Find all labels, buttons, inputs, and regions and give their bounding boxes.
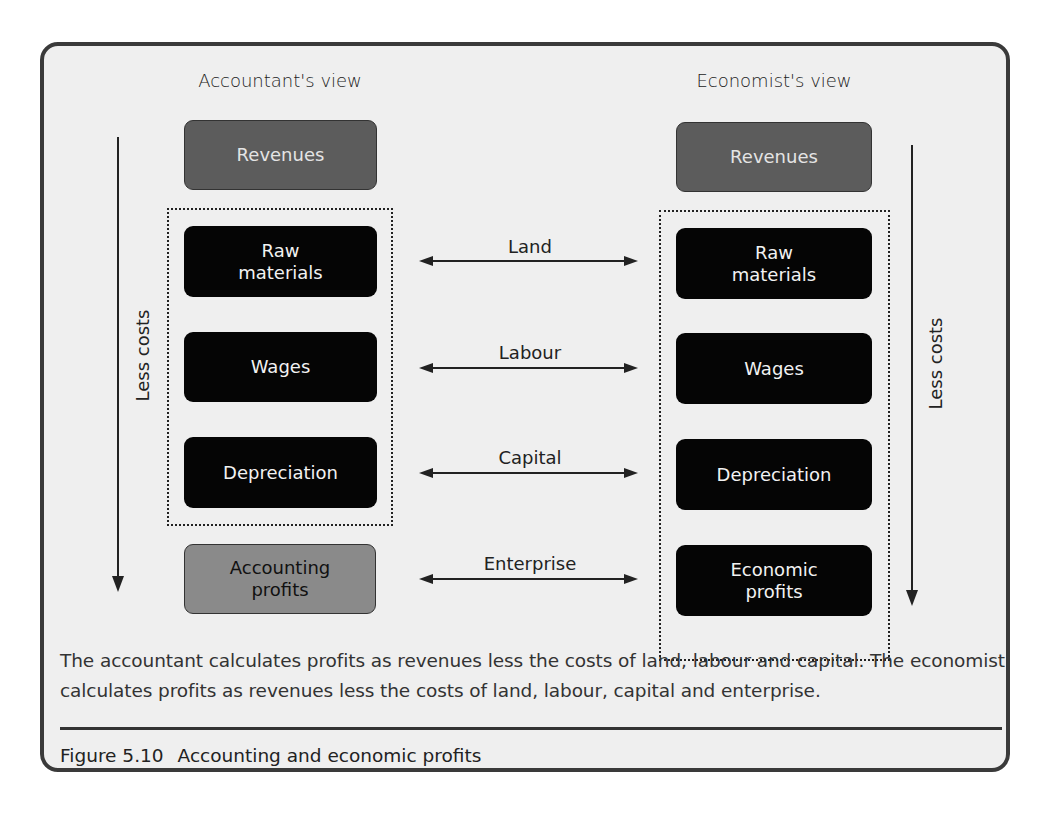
accountant-depreciation-box: Depreciation [184, 437, 377, 508]
connector-label-capital: Capital [425, 447, 635, 468]
economist-view-title: Economist's view [644, 70, 904, 91]
accountant-raw-materials-box: Raw materials [184, 226, 377, 297]
figure-title-line: Figure 5.10Accounting and economic profi… [60, 745, 481, 766]
connector-capital-line [430, 472, 630, 474]
accountant-revenues-box: Revenues [184, 120, 377, 190]
economist-raw-materials-box: Raw materials [676, 228, 872, 299]
connector-label-land: Land [425, 236, 635, 257]
figure-title: Accounting and economic profits [178, 745, 482, 766]
right-less-costs-arrow-line [911, 145, 913, 592]
right-arrowhead-icon [624, 468, 638, 478]
left-arrowhead-icon [419, 363, 433, 373]
right-arrowhead-icon [624, 363, 638, 373]
left-arrowhead-icon [419, 468, 433, 478]
connector-labour-line [430, 367, 630, 369]
connector-label-enterprise: Enterprise [425, 553, 635, 574]
accountant-wages-box: Wages [184, 332, 377, 402]
left-less-costs-arrow-line [117, 137, 119, 577]
down-arrow-icon [112, 576, 124, 592]
left-arrowhead-icon [419, 574, 433, 584]
economist-wages-box: Wages [676, 333, 872, 404]
right-arrowhead-icon [624, 574, 638, 584]
economist-depreciation-box: Depreciation [676, 439, 872, 510]
right-less-costs-label: Less costs [925, 314, 946, 414]
caption-divider [60, 727, 1002, 730]
figure-caption: The accountant calculates profits as rev… [60, 646, 1005, 706]
economist-revenues-box: Revenues [676, 122, 872, 192]
left-arrowhead-icon [419, 256, 433, 266]
accountant-view-title: Accountant's view [150, 70, 410, 91]
left-less-costs-label: Less costs [132, 306, 153, 406]
accounting-profits-box: Accounting profits [184, 544, 376, 614]
connector-land-line [430, 260, 630, 262]
connector-enterprise-line [430, 578, 630, 580]
down-arrow-icon [906, 590, 918, 606]
figure-number: Figure 5.10 [60, 745, 164, 766]
right-arrowhead-icon [624, 256, 638, 266]
connector-label-labour: Labour [425, 342, 635, 363]
economic-profits-box: Economic profits [676, 545, 872, 616]
